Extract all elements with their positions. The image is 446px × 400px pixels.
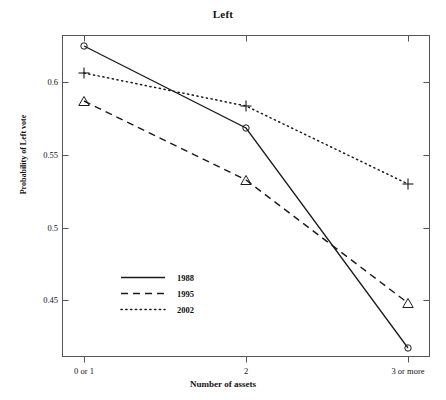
legend-label-2002: 2002 (177, 305, 194, 315)
legend-label-1995: 1995 (177, 289, 194, 299)
x-axis-ticks (85, 357, 409, 363)
y-tick-label-2: 0.5 (26, 223, 58, 233)
legend-label-1988: 1988 (177, 273, 194, 283)
x-tick-label-0: 0 or 1 (44, 366, 124, 376)
legend-samples (121, 278, 165, 310)
y-tick-label-1: 0.55 (26, 150, 58, 160)
y-tick-label-3: 0.45 (26, 295, 58, 305)
plot-canvas (0, 0, 446, 400)
x-axis-ticks-top (85, 36, 409, 42)
x-tick-label-1: 2 (206, 366, 286, 376)
x-tick-label-2: 3 or more (365, 366, 446, 376)
y-axis-title: Probability of Left vote (19, 85, 28, 225)
plot-frame (63, 36, 430, 357)
y-tick-label-0: 0.6 (26, 77, 58, 87)
y-axis-ticks-right (424, 83, 430, 301)
chart-figure: Left (0, 0, 446, 400)
marker-plus (241, 101, 252, 112)
y-axis-ticks (63, 83, 69, 301)
series-1988 (81, 43, 411, 351)
marker-plus (79, 68, 90, 79)
marker-plus (403, 179, 414, 190)
x-axis-title: Number of assets (0, 379, 446, 389)
